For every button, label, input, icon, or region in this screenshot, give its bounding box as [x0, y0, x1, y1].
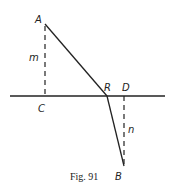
label-D: D [122, 82, 130, 93]
label-m: m [29, 52, 39, 63]
label-C: C [38, 103, 45, 114]
label-n: n [128, 124, 134, 135]
segment-AR [45, 24, 107, 96]
figure-caption: Fig. 91 [70, 171, 98, 182]
label-A: A [34, 14, 42, 25]
label-B: B [115, 171, 122, 182]
label-R: R [104, 82, 111, 93]
figure-canvas: A m C R D n B Fig. 91 [0, 0, 173, 192]
segment-RB [107, 96, 124, 166]
